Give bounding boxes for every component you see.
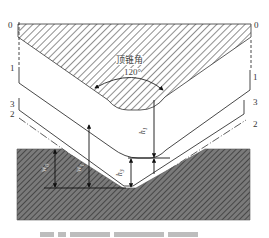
w1-main: w bbox=[74, 167, 83, 172]
dimension-label-w1: w1 bbox=[75, 164, 85, 172]
h3-sub: 3 bbox=[119, 169, 125, 172]
w0-sub: 0 bbox=[44, 164, 50, 167]
layer-label-2-left: 2 bbox=[10, 110, 15, 119]
angle-label-text: 顶锥角 bbox=[116, 56, 143, 65]
angle-label-value: 120° bbox=[124, 68, 141, 77]
h3-main: h bbox=[115, 172, 124, 176]
layer-label-2-right: 2 bbox=[253, 120, 258, 129]
h1-sub: 1 bbox=[142, 127, 148, 130]
diagram-canvas bbox=[0, 0, 269, 238]
workpiece-hatched bbox=[17, 149, 250, 220]
w0-main: w bbox=[39, 167, 48, 172]
layer-label-0-right: 0 bbox=[254, 21, 259, 30]
figure-caption-illegible bbox=[40, 224, 230, 232]
dimension-label-h1: h1 bbox=[139, 127, 149, 134]
layer-label-0-left: 0 bbox=[8, 21, 13, 30]
layer-label-3-left: 3 bbox=[10, 100, 15, 109]
w1-sub: 1 bbox=[79, 164, 85, 167]
dimension-label-w0: w0 bbox=[40, 164, 50, 172]
dimension-label-h3: h3 bbox=[116, 169, 126, 176]
layer-label-1-right: 1 bbox=[253, 73, 258, 82]
h1-main: h bbox=[138, 130, 147, 134]
layer-label-3-right: 3 bbox=[253, 98, 258, 107]
layer-label-1-left: 1 bbox=[10, 64, 15, 73]
